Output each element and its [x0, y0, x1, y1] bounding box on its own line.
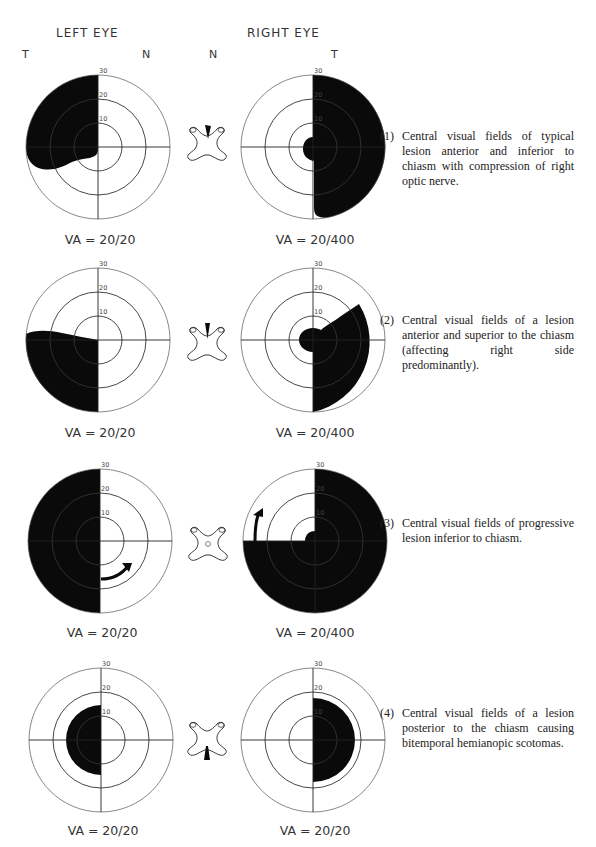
row1-caption: (1)Central visual fields of typical lesi…: [380, 129, 574, 189]
row3-left-field: [28, 461, 172, 613]
row4-left-field: [29, 660, 173, 812]
row2-right-field: [241, 260, 385, 412]
row4-caption: (4)Central visual fields of a lesion pos…: [380, 706, 574, 751]
row4-right-va: VA = 20/20: [245, 823, 385, 838]
row2-caption: (2)Central visual fields of a lesion ant…: [380, 313, 574, 373]
row1-chiasm-icon: [188, 125, 227, 160]
row2-right-va: VA = 20/400: [245, 425, 385, 440]
row3-left-va: VA = 20/20: [32, 625, 172, 640]
row2-chiasm-icon: [188, 323, 227, 360]
row1-right-va: VA = 20/400: [245, 232, 385, 247]
row4-right-field: [241, 660, 385, 812]
row3-right-field: [243, 461, 387, 613]
row3-right-va: VA = 20/400: [245, 625, 385, 640]
row4-left-va: VA = 20/20: [33, 823, 173, 838]
row3-caption: (3)Central visual fields of progressive …: [380, 516, 574, 546]
row4-chiasm-icon: [188, 722, 227, 760]
row3-chiasm-icon: [189, 527, 228, 560]
row2-left-field: [26, 260, 170, 412]
row2-left-va: VA = 20/20: [30, 425, 170, 440]
row1-right-field: [241, 67, 385, 219]
row1-left-field: [26, 67, 170, 219]
row1-left-va: VA = 20/20: [30, 232, 170, 247]
